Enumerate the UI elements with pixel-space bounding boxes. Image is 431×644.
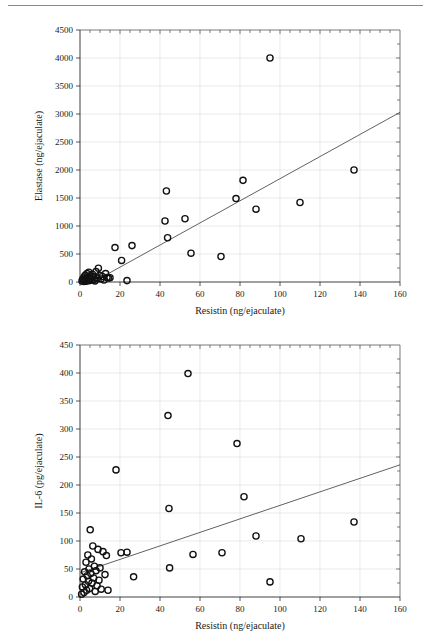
y-tick-label: 250	[60, 452, 74, 462]
y-tick-label: 450	[60, 340, 74, 350]
data-point-marker	[113, 467, 119, 473]
data-point-marker	[190, 551, 196, 557]
data-point-marker	[162, 218, 168, 224]
data-point-marker	[165, 235, 171, 241]
data-point-marker	[87, 527, 93, 533]
data-point-marker	[85, 552, 91, 558]
data-point-marker	[105, 587, 111, 593]
x-tick-label: 60	[196, 604, 206, 614]
data-point-marker	[234, 440, 240, 446]
data-point-marker	[167, 565, 173, 571]
x-tick-label: 0	[78, 604, 83, 614]
x-tick-label: 100	[273, 289, 287, 299]
x-tick-label: 140	[353, 289, 367, 299]
scatter-plot-il6-vs-resistin: 0204060801001201401600501001502002503003…	[0, 326, 431, 638]
x-tick-label: 20	[116, 289, 126, 299]
data-point-marker	[218, 253, 224, 259]
data-point-marker	[219, 550, 225, 556]
data-point-marker	[253, 533, 259, 539]
x-axis-title: Resistin (ng/ejaculate)	[195, 305, 285, 317]
x-tick-label: 160	[393, 604, 407, 614]
x-tick-label: 40	[156, 289, 166, 299]
data-point-marker	[103, 552, 109, 558]
data-point-marker	[131, 574, 137, 580]
data-point-marker	[267, 579, 273, 585]
header-divider-rule	[8, 5, 423, 6]
y-tick-label: 500	[60, 249, 74, 259]
x-tick-label: 60	[196, 289, 206, 299]
y-tick-label: 100	[60, 536, 74, 546]
x-tick-label: 160	[393, 289, 407, 299]
chart-panel-il6: 0204060801001201401600501001502002503003…	[0, 326, 431, 638]
data-point-marker	[182, 216, 188, 222]
gridlines	[80, 345, 400, 597]
data-point-marker	[188, 250, 194, 256]
figure-container: 0204060801001201401600500100015002000250…	[0, 0, 431, 644]
data-point-marker	[163, 188, 169, 194]
data-point-marker	[165, 412, 171, 418]
data-point-marker	[351, 519, 357, 525]
data-point-marker	[102, 572, 108, 578]
y-tick-label: 3000	[55, 109, 74, 119]
y-axis-title: Elastase (ng/ejaculate)	[33, 111, 45, 201]
y-tick-label: 0	[69, 277, 74, 287]
y-axis: 050010001500200025003000350040004500	[55, 25, 400, 287]
x-tick-label: 80	[236, 289, 246, 299]
data-point-marker	[166, 505, 172, 511]
chart-panel-elastase: 0204060801001201401600500100015002000250…	[0, 14, 431, 322]
x-tick-label: 100	[273, 604, 287, 614]
y-tick-label: 150	[60, 508, 74, 518]
y-tick-label: 4000	[55, 53, 74, 63]
data-point-marker	[119, 257, 125, 263]
x-tick-label: 120	[313, 604, 327, 614]
y-tick-label: 2500	[55, 137, 74, 147]
data-point-marker	[233, 195, 239, 201]
data-point-marker	[124, 278, 130, 284]
scatter-plot-elastase-vs-resistin: 0204060801001201401600500100015002000250…	[0, 14, 431, 322]
data-point-marker	[253, 206, 259, 212]
y-tick-label: 400	[60, 368, 74, 378]
data-point-marker	[88, 556, 94, 562]
data-point-marker	[98, 586, 104, 592]
x-tick-label: 80	[236, 604, 246, 614]
data-point-marker	[185, 370, 191, 376]
y-tick-label: 300	[60, 424, 74, 434]
x-tick-label: 0	[78, 289, 83, 299]
y-tick-label: 200	[60, 480, 74, 490]
y-tick-label: 3500	[55, 81, 74, 91]
x-axis-title: Resistin (ng/ejaculate)	[195, 620, 285, 632]
data-point-marker	[96, 577, 102, 583]
x-tick-label: 40	[156, 604, 166, 614]
y-tick-label: 350	[60, 396, 74, 406]
data-point-marker	[240, 177, 246, 183]
y-tick-label: 2000	[55, 165, 74, 175]
gridlines	[80, 30, 400, 282]
x-tick-label: 120	[313, 289, 327, 299]
y-tick-label: 1500	[55, 193, 74, 203]
x-tick-label: 140	[353, 604, 367, 614]
y-tick-label: 0	[69, 592, 74, 602]
y-tick-label: 4500	[55, 25, 74, 35]
y-tick-label: 1000	[55, 221, 74, 231]
y-tick-label: 50	[64, 564, 74, 574]
data-point-marker	[241, 494, 247, 500]
data-point-marker	[129, 243, 135, 249]
x-axis: 020406080100120140160	[78, 30, 408, 299]
y-axis-title: IL-6 (pg/ejaculate)	[33, 433, 45, 508]
data-point-marker	[118, 550, 124, 556]
data-point-marker	[124, 549, 130, 555]
data-point-marker	[112, 244, 118, 250]
regression-line	[93, 112, 400, 282]
data-point-marker	[297, 199, 303, 205]
x-tick-label: 20	[116, 604, 126, 614]
